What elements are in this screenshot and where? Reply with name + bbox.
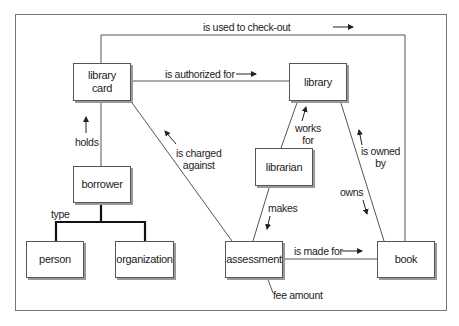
- label-is-authorized-for: is authorized for: [165, 68, 235, 80]
- entity-label: book: [395, 253, 418, 266]
- label-is-charged-against: is charged against: [176, 147, 221, 171]
- line-is-owned-by: [340, 100, 384, 241]
- label-owns: owns: [340, 186, 363, 198]
- entity-library-card: library card: [73, 63, 131, 101]
- entity-organization: organization: [115, 241, 174, 278]
- entity-library: library: [289, 63, 347, 101]
- arrow-is-charged-against-icon: [165, 131, 176, 144]
- entity-book: book: [377, 241, 435, 278]
- library-data-model-diagram: library card library librarian borrower …: [0, 0, 459, 326]
- label-type: type: [51, 208, 70, 220]
- entity-label: borrower: [81, 178, 122, 191]
- line-type-branches: [56, 222, 145, 241]
- label-holds: holds: [75, 136, 99, 148]
- line-is-used-to-check-out: [101, 35, 405, 241]
- entity-label: person: [39, 253, 71, 266]
- arrow-is-owned-by-icon: [359, 130, 362, 145]
- entity-librarian: librarian: [255, 148, 313, 186]
- entity-person: person: [26, 241, 84, 278]
- label-is-used-to-check-out: is used to check-out: [203, 21, 290, 33]
- entity-label: assessment: [226, 253, 282, 266]
- arrow-makes-icon: [267, 216, 270, 229]
- entity-label: card: [92, 82, 112, 95]
- entity-label: organization: [116, 253, 172, 266]
- label-makes: makes: [268, 202, 297, 214]
- entity-assessment: assessment: [225, 241, 283, 278]
- entity-label: library: [304, 76, 332, 89]
- label-fee-amount: fee amount: [273, 289, 323, 301]
- label-is-made-for: is made for: [294, 245, 343, 257]
- arrow-works-for-icon: [302, 107, 306, 121]
- entity-borrower: borrower: [73, 166, 131, 203]
- label-works-for: works for: [295, 122, 321, 146]
- arrow-owns-icon: [363, 200, 367, 214]
- entity-label: librarian: [266, 161, 302, 174]
- label-is-owned-by: is owned by: [361, 145, 400, 169]
- entity-label: library: [88, 69, 116, 82]
